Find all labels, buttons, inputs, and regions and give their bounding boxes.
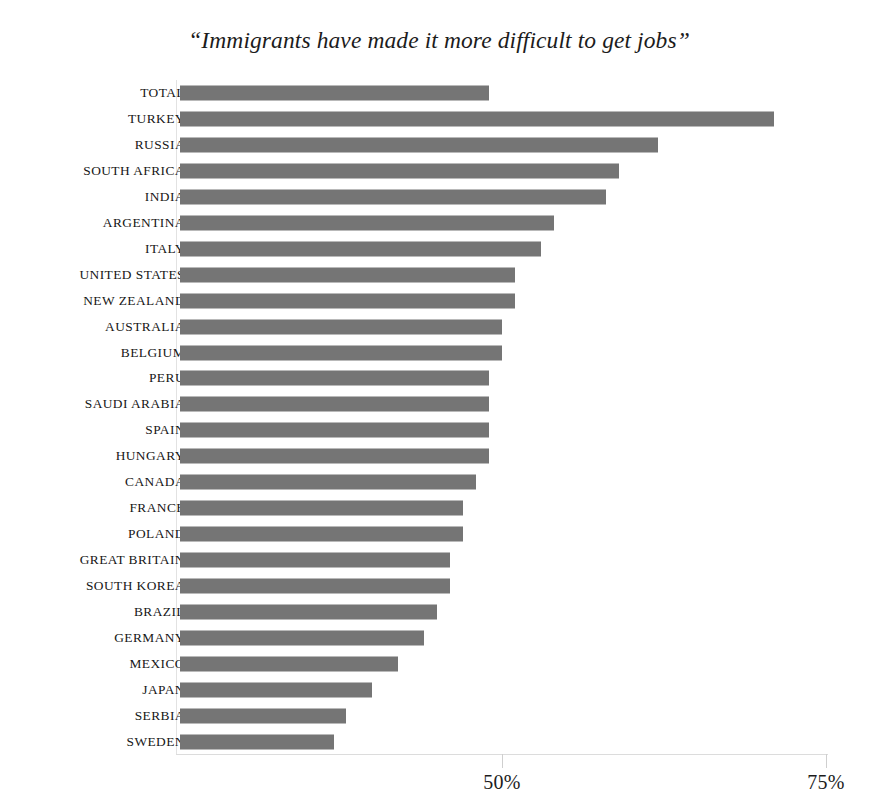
category-label: BELGIUM (121, 346, 185, 359)
bar-track (180, 682, 372, 697)
category-label: ARGENTINA (103, 216, 185, 229)
x-axis-tick-mark (826, 754, 827, 768)
bar-row: UNITED STATES (0, 262, 878, 288)
bar-row: JAPAN (0, 677, 878, 703)
bar-row: SOUTH AFRICA (0, 158, 878, 184)
bar-track (180, 501, 463, 516)
bar-row: GREAT BRITAIN (0, 547, 878, 573)
bar[interactable] (180, 397, 489, 412)
bar-track (180, 708, 346, 723)
bar[interactable] (180, 267, 515, 282)
bar[interactable] (180, 449, 489, 464)
category-label: POLAND (128, 527, 185, 540)
chart-figure: “Immigrants have made it more difficult … (0, 0, 878, 809)
x-axis-tick-mark (502, 754, 503, 768)
bar-track (180, 137, 658, 152)
bar-track (180, 553, 450, 568)
bar[interactable] (180, 501, 463, 516)
bar[interactable] (180, 371, 489, 386)
bar-track (180, 656, 398, 671)
bar-track (180, 111, 774, 126)
category-label: SAUDI ARABIA (85, 398, 185, 411)
bar-track (180, 215, 554, 230)
category-label: NEW ZEALAND (83, 294, 185, 307)
bar[interactable] (180, 345, 502, 360)
bar[interactable] (180, 423, 489, 438)
bar-track (180, 579, 450, 594)
bar-track (180, 423, 489, 438)
bar-row: SAUDI ARABIA (0, 391, 878, 417)
category-label: UNITED STATES (79, 268, 185, 281)
bar-row: TURKEY (0, 106, 878, 132)
category-label: GREAT BRITAIN (80, 553, 185, 566)
bar-row: SPAIN (0, 417, 878, 443)
bar[interactable] (180, 605, 437, 620)
bar[interactable] (180, 656, 398, 671)
category-label: GERMANY (114, 631, 185, 644)
bar[interactable] (180, 241, 541, 256)
category-label: INDIA (145, 190, 185, 203)
bar-track (180, 293, 515, 308)
bar-track (180, 734, 334, 749)
bar-track (180, 163, 619, 178)
category-label: FRANCE (129, 501, 185, 514)
bar-row: MEXICO (0, 651, 878, 677)
category-label: TURKEY (128, 112, 185, 125)
x-axis-tick-label: 75% (807, 771, 844, 794)
bar-track (180, 345, 502, 360)
bar-track (180, 189, 606, 204)
bar[interactable] (180, 708, 346, 723)
bar[interactable] (180, 527, 463, 542)
bar-row: CANADA (0, 469, 878, 495)
bar-row: NEW ZEALAND (0, 288, 878, 314)
bar-row: BRAZIL (0, 599, 878, 625)
bar-row: TOTAL (0, 80, 878, 106)
bar[interactable] (180, 734, 334, 749)
bar[interactable] (180, 293, 515, 308)
bar[interactable] (180, 86, 489, 101)
bar-track (180, 319, 502, 334)
bar[interactable] (180, 137, 658, 152)
category-label: CANADA (125, 476, 185, 489)
bar-track (180, 449, 489, 464)
bar[interactable] (180, 630, 424, 645)
bar[interactable] (180, 475, 476, 490)
bar[interactable] (180, 682, 372, 697)
bar-track (180, 475, 476, 490)
bar-track (180, 241, 541, 256)
category-label: JAPAN (142, 683, 185, 696)
bar[interactable] (180, 553, 450, 568)
category-label: SERBIA (135, 709, 185, 722)
bar[interactable] (180, 579, 450, 594)
bar-row: ITALY (0, 236, 878, 262)
bar[interactable] (180, 163, 619, 178)
category-label: HUNGARY (116, 450, 185, 463)
bar[interactable] (180, 319, 502, 334)
category-label: SOUTH AFRICA (83, 164, 185, 177)
bar-track (180, 527, 463, 542)
bar-row: GERMANY (0, 625, 878, 651)
category-label: BRAZIL (134, 605, 185, 618)
bar-row: SOUTH KOREA (0, 573, 878, 599)
bar-row: HUNGARY (0, 443, 878, 469)
bar-track (180, 86, 489, 101)
category-label: RUSSIA (135, 138, 185, 151)
bar[interactable] (180, 189, 606, 204)
category-label: SOUTH KOREA (86, 579, 185, 592)
bar-track (180, 371, 489, 386)
bar-row: FRANCE (0, 495, 878, 521)
bar-track (180, 605, 437, 620)
bar-row: INDIA (0, 184, 878, 210)
plot-area: TOTALTURKEYRUSSIASOUTH AFRICAINDIAARGENT… (0, 0, 878, 809)
bar-row: PERU (0, 365, 878, 391)
category-label: ITALY (145, 242, 185, 255)
bar-track (180, 397, 489, 412)
x-axis-tick-label: 50% (483, 771, 520, 794)
category-label: TOTAL (140, 86, 185, 99)
bar-row: BELGIUM (0, 340, 878, 366)
bar-row: SERBIA (0, 703, 878, 729)
bar[interactable] (180, 215, 554, 230)
category-label: AUSTRALIA (105, 320, 185, 333)
bar[interactable] (180, 111, 774, 126)
category-label: SWEDEN (127, 735, 186, 748)
